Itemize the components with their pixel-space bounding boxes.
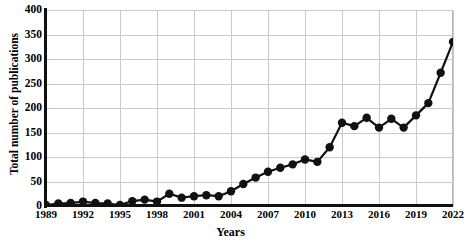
data-point-marker [436, 69, 444, 77]
x-tick-label: 2022 [430, 208, 469, 220]
y-tick-label: 300 [4, 52, 42, 64]
data-point-marker [362, 114, 370, 122]
y-tick-label: 200 [4, 101, 42, 113]
data-point-marker [264, 168, 272, 176]
data-point-marker [214, 192, 222, 200]
data-point-marker [251, 173, 259, 181]
plot-area [46, 10, 453, 206]
data-point-marker [412, 111, 420, 119]
data-point-marker [449, 38, 453, 46]
y-axis-line [44, 8, 47, 208]
data-series-line [46, 10, 453, 206]
data-point-marker [424, 99, 432, 107]
data-point-marker [202, 191, 210, 199]
data-point-marker [399, 123, 407, 131]
y-tick-label: 250 [4, 77, 42, 89]
data-point-marker [288, 160, 296, 168]
data-point-marker [387, 115, 395, 123]
y-tick-label: 150 [4, 126, 42, 138]
data-point-marker [301, 155, 309, 163]
data-point-marker [350, 122, 358, 130]
series-polyline [46, 42, 453, 205]
x-axis-line [44, 204, 453, 207]
data-point-marker [190, 192, 198, 200]
data-point-marker [325, 143, 333, 151]
data-point-marker [276, 164, 284, 172]
data-point-marker [239, 180, 247, 188]
gridline-vertical [453, 10, 454, 206]
y-tick-label: 50 [4, 175, 42, 187]
data-point-marker [375, 123, 383, 131]
data-point-marker [338, 119, 346, 127]
data-point-marker [140, 195, 148, 203]
y-tick-label: 350 [4, 28, 42, 40]
x-axis-title: Years [0, 225, 461, 240]
y-tick-label: 400 [4, 3, 42, 15]
data-point-marker [227, 187, 235, 195]
data-point-marker [177, 193, 185, 201]
data-point-marker [165, 190, 173, 198]
y-tick-label: 100 [4, 150, 42, 162]
data-point-marker [313, 158, 321, 166]
